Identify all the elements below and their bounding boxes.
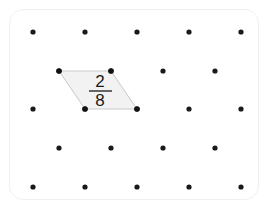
fraction-numerator: 2 (95, 72, 104, 91)
geoboard-peg[interactable] (134, 184, 139, 189)
shape-vertex-top-right[interactable] (108, 68, 114, 74)
geoboard-peg[interactable] (238, 106, 243, 111)
geoboard-peg[interactable] (108, 145, 113, 150)
geoboard-peg[interactable] (30, 29, 35, 34)
geoboard-canvas[interactable]: 2 8 (0, 0, 269, 210)
geoboard-peg[interactable] (238, 184, 243, 189)
geoboard-peg[interactable] (82, 29, 87, 34)
geoboard-peg[interactable] (238, 29, 243, 34)
geoboard-peg[interactable] (30, 106, 35, 111)
geoboard-peg[interactable] (186, 106, 191, 111)
geoboard-peg[interactable] (212, 145, 217, 150)
geoboard-peg[interactable] (160, 68, 165, 73)
geoboard-peg[interactable] (82, 184, 87, 189)
geoboard-peg[interactable] (56, 145, 61, 150)
fraction-denominator: 8 (95, 91, 104, 110)
geoboard-peg[interactable] (186, 29, 191, 34)
geoboard-peg[interactable] (30, 184, 35, 189)
geoboard-peg[interactable] (160, 145, 165, 150)
geoboard-stage: 2 8 2/8 (0, 0, 269, 210)
geoboard-peg[interactable] (186, 184, 191, 189)
shape-vertex-bottom-left[interactable] (82, 106, 88, 112)
shape-vertex-top-left[interactable] (56, 68, 62, 74)
geoboard-peg[interactable] (134, 29, 139, 34)
geoboard-peg[interactable] (212, 68, 217, 73)
shape-vertex-bottom-right[interactable] (134, 106, 140, 112)
